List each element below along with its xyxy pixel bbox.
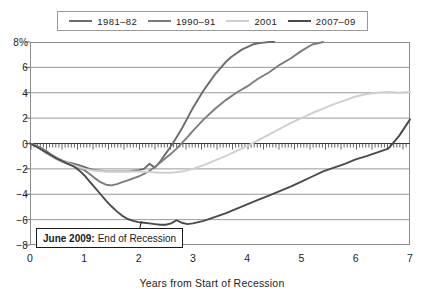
y-tick-label-8: −8 [2, 240, 28, 251]
series-line-1981-82 [30, 42, 274, 171]
y-tick-label-7: −6 [2, 214, 28, 225]
y-tick-label-6: −4 [2, 189, 28, 200]
x-tick-label-4: 4 [244, 252, 250, 264]
x-tick-label-5: 5 [299, 252, 305, 264]
callout-bold-text: June 2009: [43, 233, 95, 244]
june-2009-callout: June 2009: End of Recession [36, 228, 183, 248]
y-axis-tick-labels: 8%6420−2−4−6−8 [0, 0, 28, 302]
y-tick-label-2: 4 [2, 87, 28, 98]
y-tick-label-1: 6 [2, 62, 28, 73]
x-tick-label-6: 6 [353, 252, 359, 264]
y-tick-label-4: 0 [2, 138, 28, 149]
x-tick-label-0: 0 [27, 252, 33, 264]
x-tick-label-2: 2 [136, 252, 142, 264]
x-axis-title: Years from Start of Recession [0, 277, 424, 289]
callout-text: End of Recession [98, 233, 176, 244]
y-tick-label-5: −2 [2, 163, 28, 174]
x-tick-label-3: 3 [190, 252, 196, 264]
x-tick-label-1: 1 [81, 252, 87, 264]
x-tick-label-7: 7 [407, 252, 413, 264]
zero-line-hatch [30, 144, 410, 150]
plot-canvas [0, 0, 424, 302]
chart-root: 1981–82 1990–91 2001 2007–09 8%6420−2−4−… [0, 0, 424, 302]
y-tick-label-0: 8% [2, 37, 28, 48]
series-lines [30, 42, 410, 225]
y-tick-label-3: 2 [2, 113, 28, 124]
